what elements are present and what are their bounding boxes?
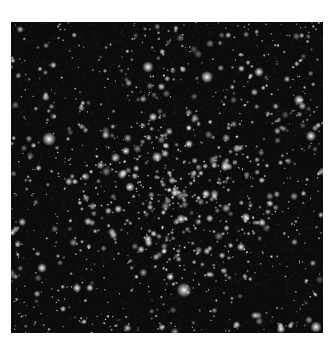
star-field-image	[11, 22, 323, 333]
star-cluster-canvas	[11, 22, 323, 333]
